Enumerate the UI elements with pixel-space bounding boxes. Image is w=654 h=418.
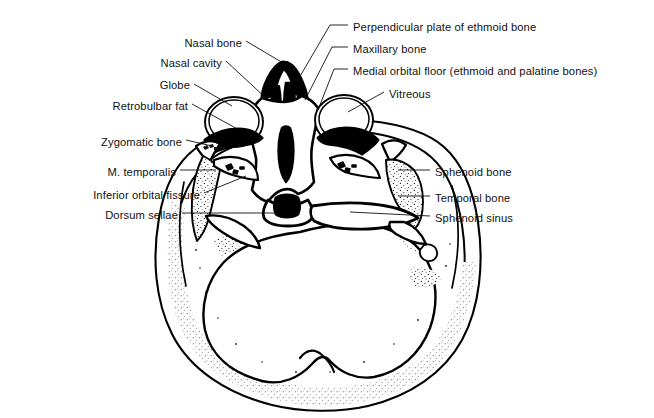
label-nasal-bone: Nasal bone xyxy=(184,37,242,50)
dorsum-sellae xyxy=(275,195,300,217)
leader-globe xyxy=(194,84,232,106)
drawing-canvas xyxy=(155,62,480,411)
carotid-canal-right xyxy=(420,244,437,261)
leader-nasal-cavity xyxy=(226,61,268,100)
leader-maxillary-bone xyxy=(305,47,348,100)
label-maxillary-bone: Maxillary bone xyxy=(353,43,427,56)
label-retrobulbar-fat: Retrobulbar fat xyxy=(112,100,188,113)
label-nasal-cavity: Nasal cavity xyxy=(160,57,222,70)
label-inferior-orbital-fissure: Inferior orbital fissure xyxy=(93,189,200,202)
label-temporal-bone: Temporal bone xyxy=(435,192,510,205)
label-zygomatic-bone: Zygomatic bone xyxy=(101,136,182,149)
label-dorsum-sellae: Dorsum sellae xyxy=(105,209,178,222)
label-perpendicular-plate-ethmoid: Perpendicular plate of ethmoid bone xyxy=(353,21,536,34)
leader-nasal-bone xyxy=(246,41,283,63)
label-vitreous: Vitreous xyxy=(389,88,431,101)
vomer-midline-septum xyxy=(279,127,294,183)
label-medial-orbital-floor: Medial orbital floor (ethmoid and palati… xyxy=(353,65,597,78)
label-globe: Globe xyxy=(160,79,190,92)
skull-base-axial-diagram xyxy=(0,0,654,418)
label-sphenoid-sinus: Sphenoid sinus xyxy=(435,212,513,225)
label-sphenoid-bone: Sphenoid bone xyxy=(435,166,512,179)
label-m-temporalis: M. temporalis xyxy=(108,166,176,179)
